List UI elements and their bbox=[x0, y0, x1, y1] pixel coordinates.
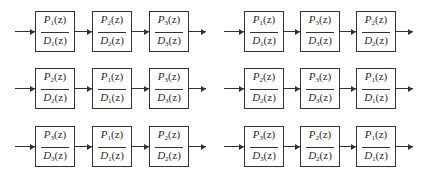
denominator-argument: (z) bbox=[169, 34, 181, 46]
fraction-bar bbox=[98, 32, 126, 33]
numerator-symbol: P bbox=[44, 13, 51, 25]
fraction-bar bbox=[155, 147, 183, 148]
denominator: D3(z) bbox=[43, 149, 67, 166]
numerator: P3(z) bbox=[44, 128, 66, 145]
numerator-argument: (z) bbox=[319, 13, 331, 25]
fraction-bar bbox=[41, 89, 69, 90]
denominator-argument: (z) bbox=[376, 34, 388, 46]
fraction-bar bbox=[155, 32, 183, 33]
fraction: P3(z)D3(z) bbox=[301, 12, 339, 51]
denominator-argument: (z) bbox=[376, 149, 388, 161]
denominator-symbol: D bbox=[100, 34, 108, 46]
transfer-function-block: P1(z)D1(z) bbox=[35, 11, 75, 52]
denominator-argument: (z) bbox=[169, 149, 181, 161]
transfer-function-block: P1(z)D1(z) bbox=[356, 68, 396, 109]
denominator-symbol: D bbox=[252, 91, 260, 103]
denominator-symbol: D bbox=[364, 34, 372, 46]
numerator-argument: (z) bbox=[111, 128, 123, 140]
fraction: P3(z)D3(z) bbox=[150, 12, 188, 51]
numerator-argument: (z) bbox=[263, 128, 275, 140]
transfer-function-block: P1(z)D1(z) bbox=[244, 11, 284, 52]
fraction: P2(z)D2(z) bbox=[245, 69, 283, 108]
numerator: P2(z) bbox=[44, 70, 66, 87]
numerator-argument: (z) bbox=[54, 70, 66, 82]
transfer-function-block: P1(z)D1(z) bbox=[356, 126, 396, 167]
numerator-argument: (z) bbox=[54, 128, 66, 140]
numerator-symbol: P bbox=[158, 13, 165, 25]
fraction-bar bbox=[306, 32, 334, 33]
denominator-symbol: D bbox=[100, 91, 108, 103]
denominator: D2(z) bbox=[252, 91, 276, 108]
denominator: D2(z) bbox=[157, 149, 181, 166]
denominator-argument: (z) bbox=[55, 34, 67, 46]
transfer-function-block: P2(z)D2(z) bbox=[92, 11, 132, 52]
numerator: P3(z) bbox=[158, 13, 180, 30]
transfer-function-block: P3(z)D3(z) bbox=[35, 126, 75, 167]
numerator: P3(z) bbox=[309, 70, 331, 87]
denominator-symbol: D bbox=[364, 149, 372, 161]
denominator: D3(z) bbox=[157, 34, 181, 51]
numerator-symbol: P bbox=[309, 70, 316, 82]
denominator: D2(z) bbox=[308, 149, 332, 166]
cascade-diagram: P1(z)D1(z)P2(z)D2(z)P3(z)D3(z)P1(z)D1(z)… bbox=[0, 0, 428, 179]
numerator-argument: (z) bbox=[319, 70, 331, 82]
fraction: P1(z)D1(z) bbox=[357, 69, 395, 108]
arrowhead-icon bbox=[408, 144, 413, 150]
numerator-symbol: P bbox=[253, 13, 260, 25]
numerator: P1(z) bbox=[365, 128, 387, 145]
fraction: P2(z)D2(z) bbox=[357, 12, 395, 51]
numerator-symbol: P bbox=[309, 13, 316, 25]
numerator-argument: (z) bbox=[375, 13, 387, 25]
denominator-symbol: D bbox=[252, 149, 260, 161]
numerator-argument: (z) bbox=[168, 70, 180, 82]
denominator-symbol: D bbox=[43, 149, 51, 161]
numerator-argument: (z) bbox=[168, 128, 180, 140]
numerator-argument: (z) bbox=[375, 70, 387, 82]
fraction-bar bbox=[306, 147, 334, 148]
fraction-bar bbox=[250, 89, 278, 90]
numerator: P1(z) bbox=[253, 13, 275, 30]
transfer-function-block: P1(z)D1(z) bbox=[92, 126, 132, 167]
numerator: P1(z) bbox=[365, 70, 387, 87]
numerator-argument: (z) bbox=[111, 70, 123, 82]
fraction: P3(z)D3(z) bbox=[245, 127, 283, 166]
numerator-symbol: P bbox=[101, 128, 108, 140]
transfer-function-block: P3(z)D3(z) bbox=[300, 68, 340, 109]
denominator: D2(z) bbox=[364, 34, 388, 51]
denominator-argument: (z) bbox=[264, 91, 276, 103]
numerator-symbol: P bbox=[44, 70, 51, 82]
fraction-bar bbox=[250, 147, 278, 148]
denominator: D1(z) bbox=[43, 34, 67, 51]
numerator: P2(z) bbox=[101, 13, 123, 30]
denominator-symbol: D bbox=[43, 34, 51, 46]
denominator-argument: (z) bbox=[112, 149, 124, 161]
fraction-bar bbox=[362, 32, 390, 33]
numerator-argument: (z) bbox=[168, 13, 180, 25]
denominator: D1(z) bbox=[252, 34, 276, 51]
denominator-argument: (z) bbox=[169, 91, 181, 103]
denominator: D3(z) bbox=[157, 91, 181, 108]
denominator-symbol: D bbox=[308, 149, 316, 161]
denominator: D3(z) bbox=[308, 34, 332, 51]
fraction: P1(z)D1(z) bbox=[93, 69, 131, 108]
transfer-function-block: P2(z)D2(z) bbox=[356, 11, 396, 52]
numerator-symbol: P bbox=[253, 70, 260, 82]
numerator: P1(z) bbox=[101, 128, 123, 145]
fraction: P2(z)D2(z) bbox=[301, 127, 339, 166]
fraction: P1(z)D1(z) bbox=[357, 127, 395, 166]
fraction: P1(z)D1(z) bbox=[93, 127, 131, 166]
transfer-function-block: P3(z)D3(z) bbox=[300, 11, 340, 52]
numerator-argument: (z) bbox=[263, 13, 275, 25]
fraction: P2(z)D2(z) bbox=[93, 12, 131, 51]
fraction-bar bbox=[98, 147, 126, 148]
numerator: P2(z) bbox=[309, 128, 331, 145]
denominator: D1(z) bbox=[364, 91, 388, 108]
denominator-argument: (z) bbox=[320, 34, 332, 46]
arrowhead-icon bbox=[201, 29, 206, 35]
denominator-symbol: D bbox=[157, 34, 165, 46]
numerator-symbol: P bbox=[365, 13, 372, 25]
numerator-symbol: P bbox=[253, 128, 260, 140]
fraction: P3(z)D3(z) bbox=[301, 69, 339, 108]
denominator-argument: (z) bbox=[376, 91, 388, 103]
denominator-argument: (z) bbox=[112, 91, 124, 103]
